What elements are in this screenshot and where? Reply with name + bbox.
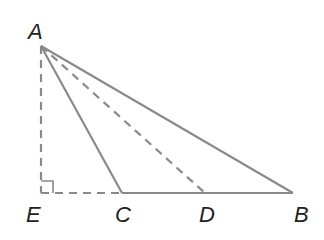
- label-b: B: [294, 202, 309, 227]
- label-c: C: [115, 202, 131, 227]
- label-a: A: [26, 19, 43, 44]
- segment-ab: [41, 46, 293, 193]
- right-angle-mark: [41, 181, 53, 193]
- segment-ad-dashed: [41, 46, 205, 193]
- segment-ac: [41, 46, 122, 193]
- label-e: E: [26, 202, 41, 227]
- triangle-diagram: A E C D B: [0, 0, 324, 240]
- label-d: D: [199, 202, 215, 227]
